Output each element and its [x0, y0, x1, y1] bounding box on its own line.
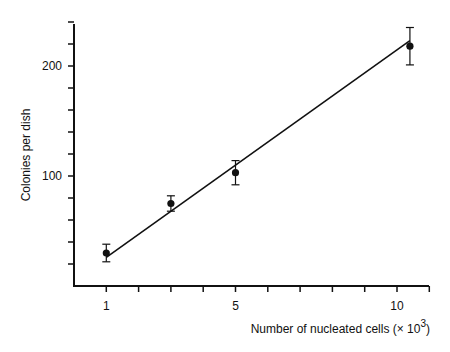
x-axis-label: Number of nucleated cells (× 103) [251, 318, 430, 336]
x-tick-label: 5 [232, 299, 239, 313]
y-tick-label: 200 [42, 59, 62, 73]
marker [406, 43, 413, 50]
x-tick-label: 10 [390, 299, 404, 313]
y-axis-label: Colonies per dish [19, 109, 33, 202]
fit-line [106, 41, 410, 258]
data-point [102, 244, 110, 262]
data-point [232, 161, 240, 185]
data-point [406, 28, 414, 65]
marker [232, 169, 239, 176]
y-tick-label: 100 [42, 169, 62, 183]
marker [103, 249, 110, 256]
chart: 1002001510 Colonies per dish Number of n… [0, 0, 450, 352]
axes [73, 24, 429, 287]
x-tick-label: 1 [103, 299, 110, 313]
marker [167, 200, 174, 207]
